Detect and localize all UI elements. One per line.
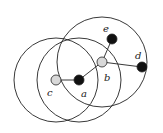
node-a xyxy=(74,75,84,85)
node-label-b: b xyxy=(104,72,110,83)
node-d xyxy=(137,62,147,72)
range-circles xyxy=(14,17,147,122)
node-b xyxy=(97,57,107,67)
nodes xyxy=(51,34,147,85)
node-label-e: e xyxy=(103,23,109,34)
node-c xyxy=(51,75,61,85)
edge-b-d xyxy=(102,62,142,67)
node-label-c: c xyxy=(47,87,53,98)
node-label-d: d xyxy=(135,50,141,61)
node-labels: cabed xyxy=(47,23,141,99)
network-range-diagram: cabed xyxy=(0,0,163,133)
node-e xyxy=(107,34,117,44)
node-label-a: a xyxy=(81,88,87,99)
